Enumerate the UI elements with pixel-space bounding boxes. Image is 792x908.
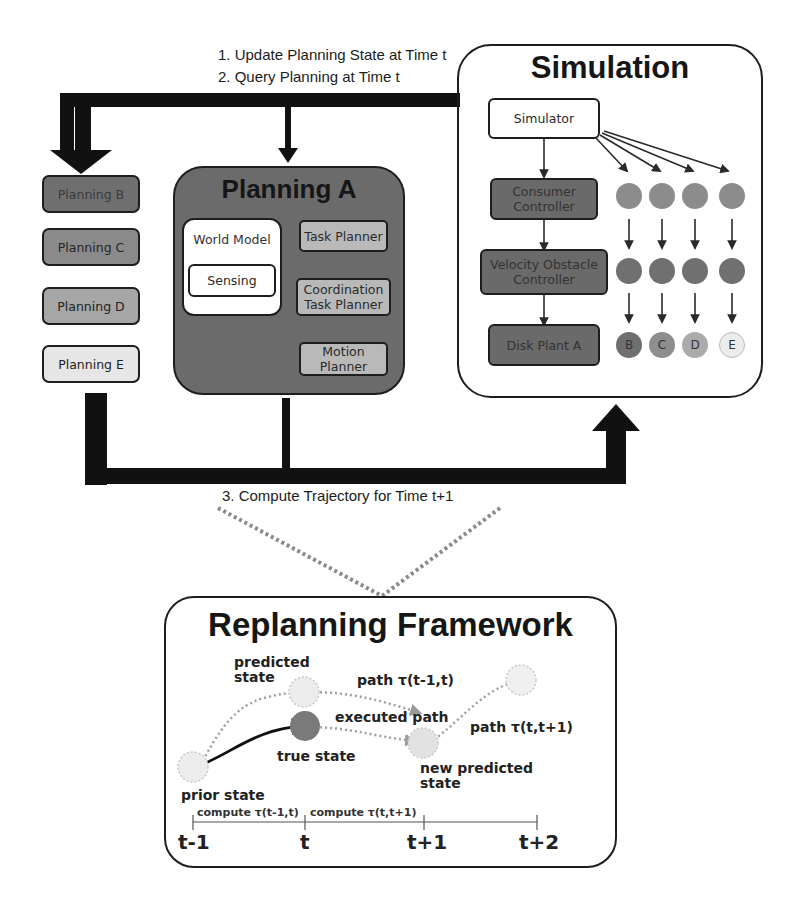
velocity-obstacle-controller-label: Velocity Obstacle Controller [482, 257, 606, 287]
top-flow-bar [50, 93, 460, 174]
agent-d-controller-circle [682, 183, 708, 209]
consumer-controller-box[interactable]: Consumer Controller [490, 178, 598, 220]
predicted-state-label: predicted state [234, 655, 304, 685]
agent-c-controller-circle [649, 183, 675, 209]
compute-prev-label: compute τ(t-1,t) [197, 806, 299, 819]
sensing-label: Sensing [207, 273, 256, 288]
coordination-task-planner-box[interactable]: Coordination Task Planner [296, 278, 391, 316]
planner-c-box[interactable]: Planning C [42, 228, 140, 266]
simulator-box[interactable]: Simulator [488, 98, 600, 139]
path-prev-label: path τ(t-1,t) [357, 673, 454, 688]
agent-d-vo-circle [682, 258, 708, 284]
agent-b-plant-circle: B [616, 332, 642, 358]
motion-planner-box[interactable]: Motion Planner [299, 342, 388, 376]
tick-t-minus-1: t-1 [178, 830, 210, 854]
consumer-controller-label: Consumer Controller [492, 184, 596, 214]
agent-c-label: C [658, 338, 666, 352]
agent-d-plant-circle: D [682, 332, 708, 358]
path-next-label: path τ(t,t+1) [470, 720, 573, 735]
planner-b-box[interactable]: Planning B [42, 175, 140, 213]
agent-c-vo-circle [649, 258, 675, 284]
new-predicted-state-label: new predicted state [420, 761, 550, 791]
disk-plant-a-box[interactable]: Disk Plant A [488, 324, 600, 366]
agent-d-label: D [690, 338, 699, 352]
step-1-caption: 1. Update Planning State at Time t [218, 46, 446, 63]
planner-e-box[interactable]: Planning E [42, 345, 140, 383]
agent-e-plant-circle: E [719, 332, 745, 358]
task-planner-label: Task Planner [304, 229, 382, 244]
executed-path-label: executed path [335, 710, 449, 725]
motion-planner-label: Motion Planner [301, 344, 386, 374]
disk-plant-a-label: Disk Plant A [507, 338, 582, 353]
simulator-label: Simulator [514, 111, 574, 126]
bottom-flow-bar [85, 393, 640, 485]
agent-e-label: E [728, 338, 736, 352]
agent-b-label: B [625, 338, 633, 352]
agent-b-vo-circle [616, 258, 642, 284]
planner-d-box[interactable]: Planning D [42, 287, 140, 325]
dotted-v-connector [218, 508, 500, 596]
sensing-box[interactable]: Sensing [188, 264, 276, 297]
agent-b-controller-circle [616, 183, 642, 209]
tick-t: t [300, 830, 310, 854]
task-planner-box[interactable]: Task Planner [299, 220, 388, 252]
coordination-task-planner-label: Coordination Task Planner [298, 282, 389, 312]
step-3-caption: 3. Compute Trajectory for Time t+1 [222, 487, 453, 504]
simulation-title: Simulation [459, 50, 761, 86]
planner-d-label: Planning D [57, 299, 124, 314]
prior-state-label: prior state [181, 788, 265, 803]
tick-t-plus-2: t+2 [519, 830, 559, 854]
tick-t-plus-1: t+1 [407, 830, 447, 854]
step-2-caption: 2. Query Planning at Time t [218, 68, 400, 85]
agent-e-controller-circle [719, 183, 745, 209]
agent-c-plant-circle: C [649, 332, 675, 358]
planning-a-title: Planning A [175, 174, 403, 205]
agent-e-vo-circle [719, 258, 745, 284]
planner-b-label: Planning B [58, 187, 124, 202]
world-model-label: World Model [184, 232, 280, 247]
compute-next-label: compute τ(t,t+1) [310, 806, 416, 819]
velocity-obstacle-controller-box[interactable]: Velocity Obstacle Controller [480, 249, 608, 295]
planner-c-label: Planning C [58, 240, 125, 255]
planner-e-label: Planning E [58, 357, 124, 372]
true-state-label: true state [277, 749, 356, 764]
replanning-framework-title: Replanning Framework [166, 606, 615, 644]
